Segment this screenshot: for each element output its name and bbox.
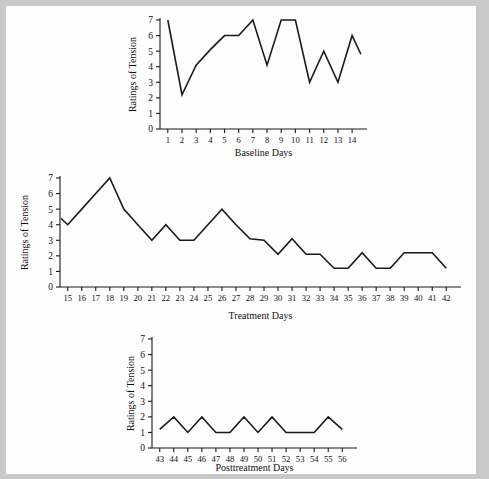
svg-text:12: 12 — [319, 135, 328, 145]
treatment-yaxis-title: Ratings of Tension — [19, 195, 30, 270]
svg-text:6: 6 — [140, 350, 145, 360]
svg-text:37: 37 — [372, 293, 381, 303]
svg-text:34: 34 — [330, 293, 339, 303]
svg-text:45: 45 — [184, 454, 193, 464]
svg-text:2: 2 — [48, 251, 53, 261]
svg-text:4: 4 — [208, 135, 213, 145]
baseline-plot: 012345671234567891011121314Baseline Days… — [124, 10, 374, 164]
svg-text:5: 5 — [222, 135, 226, 145]
svg-text:14: 14 — [348, 135, 357, 145]
svg-text:9: 9 — [279, 135, 283, 145]
svg-text:27: 27 — [232, 293, 241, 303]
svg-text:4: 4 — [140, 381, 145, 391]
svg-text:25: 25 — [204, 293, 213, 303]
svg-text:2: 2 — [180, 135, 184, 145]
svg-text:10: 10 — [291, 135, 300, 145]
svg-text:8: 8 — [265, 135, 269, 145]
svg-text:0: 0 — [48, 282, 53, 292]
svg-text:30: 30 — [274, 293, 283, 303]
svg-text:31: 31 — [288, 293, 297, 303]
svg-text:0: 0 — [140, 443, 145, 453]
treatment-xaxis-title: Treatment Days — [229, 310, 293, 321]
svg-text:32: 32 — [302, 293, 311, 303]
svg-text:3: 3 — [194, 135, 198, 145]
svg-text:29: 29 — [260, 293, 269, 303]
svg-text:20: 20 — [134, 293, 143, 303]
svg-text:3: 3 — [140, 397, 145, 407]
svg-text:43: 43 — [155, 454, 164, 464]
svg-text:16: 16 — [77, 293, 86, 303]
svg-text:1: 1 — [148, 109, 153, 119]
svg-text:33: 33 — [316, 293, 325, 303]
chart-panel-baseline: 012345671234567891011121314Baseline Days… — [124, 10, 374, 160]
svg-text:19: 19 — [119, 293, 128, 303]
svg-text:6: 6 — [48, 189, 53, 199]
svg-text:7: 7 — [48, 173, 53, 183]
svg-text:21: 21 — [148, 293, 157, 303]
svg-text:35: 35 — [344, 293, 353, 303]
posttreatment-xaxis-title: Posttreatment Days — [215, 462, 293, 473]
posttreatment-yaxis-title: Ratings of Tension — [125, 356, 136, 431]
svg-text:40: 40 — [414, 293, 423, 303]
svg-text:11: 11 — [305, 135, 313, 145]
svg-text:6: 6 — [148, 31, 153, 41]
treatment-plot: 0123456715161718192021222324252627282930… — [14, 166, 474, 330]
svg-text:1: 1 — [166, 135, 170, 145]
posttreatment-plot: 012345674344454647484950515253545556Post… — [124, 331, 384, 474]
svg-text:15: 15 — [63, 293, 72, 303]
svg-text:17: 17 — [91, 293, 100, 303]
svg-text:3: 3 — [48, 236, 53, 246]
svg-text:46: 46 — [198, 454, 207, 464]
svg-text:36: 36 — [358, 293, 367, 303]
treatment-chart-svg: 0123456715161718192021222324252627282930… — [14, 166, 474, 326]
svg-text:7: 7 — [251, 135, 256, 145]
svg-text:5: 5 — [140, 366, 145, 376]
svg-text:18: 18 — [105, 293, 114, 303]
svg-text:41: 41 — [428, 293, 437, 303]
svg-text:1: 1 — [48, 267, 53, 277]
svg-text:26: 26 — [218, 293, 227, 303]
svg-text:13: 13 — [334, 135, 343, 145]
svg-text:53: 53 — [296, 454, 305, 464]
svg-text:56: 56 — [338, 454, 347, 464]
svg-text:2: 2 — [140, 412, 145, 422]
svg-text:7: 7 — [140, 334, 145, 344]
svg-text:6: 6 — [237, 135, 242, 145]
svg-text:22: 22 — [162, 293, 171, 303]
chart-panel-posttreatment: 012345674344454647484950515253545556Post… — [124, 331, 384, 474]
figure-page: 012345671234567891011121314Baseline Days… — [6, 6, 476, 474]
svg-text:55: 55 — [324, 454, 333, 464]
svg-text:42: 42 — [442, 293, 451, 303]
svg-text:4: 4 — [48, 220, 53, 230]
svg-text:5: 5 — [148, 47, 153, 57]
svg-text:5: 5 — [48, 205, 53, 215]
svg-text:4: 4 — [148, 62, 153, 72]
svg-text:0: 0 — [148, 124, 153, 134]
svg-text:7: 7 — [148, 15, 153, 25]
svg-text:44: 44 — [169, 454, 178, 464]
svg-text:38: 38 — [386, 293, 395, 303]
svg-text:23: 23 — [176, 293, 185, 303]
posttreatment-chart-svg: 012345674344454647484950515253545556Post… — [124, 331, 384, 474]
svg-text:2: 2 — [148, 93, 153, 103]
svg-text:24: 24 — [190, 293, 199, 303]
chart-panel-treatment: 0123456715161718192021222324252627282930… — [14, 166, 474, 326]
svg-text:1: 1 — [140, 428, 145, 438]
svg-text:3: 3 — [148, 78, 153, 88]
baseline-xaxis-title: Baseline Days — [235, 147, 293, 158]
svg-text:54: 54 — [310, 454, 319, 464]
baseline-chart-svg: 012345671234567891011121314Baseline Days… — [124, 10, 374, 160]
svg-text:39: 39 — [400, 293, 409, 303]
svg-text:28: 28 — [246, 293, 255, 303]
baseline-yaxis-title: Ratings of Tension — [127, 37, 138, 112]
